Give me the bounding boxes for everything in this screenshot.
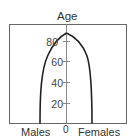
females-label: Females: [78, 127, 120, 137]
males-label: Males: [21, 127, 50, 137]
tick-label-40: 40: [43, 78, 63, 88]
x-center-label: 0: [63, 124, 69, 135]
tick-label-60: 60: [43, 57, 63, 67]
axis-title: Age: [57, 11, 77, 22]
population-pyramid-diagram: Age 80 60 40 20 0 Males Females: [0, 0, 132, 137]
plot-frame: [10, 25, 127, 124]
females-curve: [67, 33, 93, 124]
tick-label-80: 80: [38, 37, 58, 47]
tick-label-20: 20: [43, 99, 63, 109]
